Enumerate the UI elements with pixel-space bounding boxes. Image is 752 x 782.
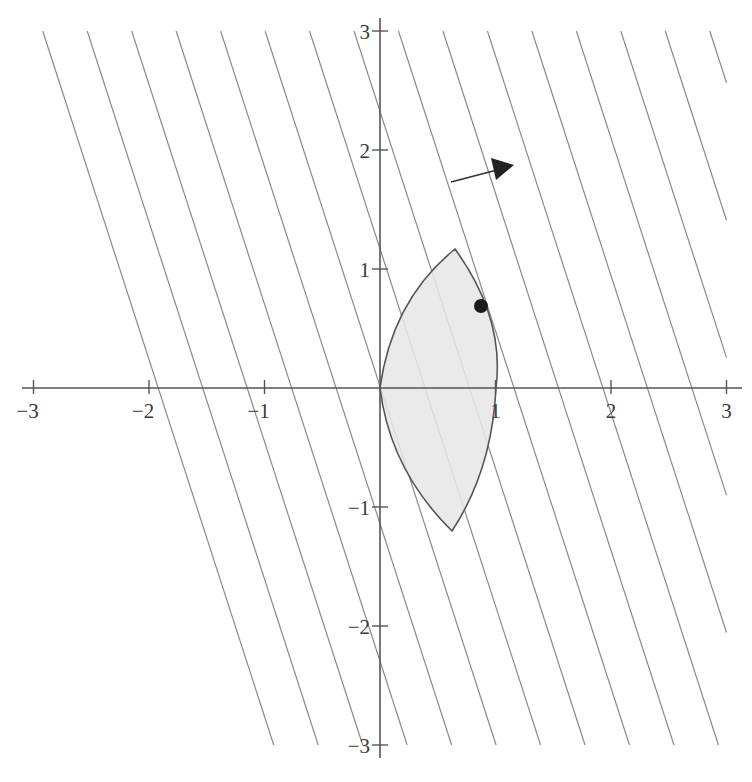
x-tick-label: −2 <box>132 399 154 423</box>
level-line <box>710 31 727 83</box>
level-line <box>665 31 726 220</box>
feasible-region <box>380 249 497 531</box>
y-tick-label: 3 <box>360 20 371 44</box>
y-tick-label: 2 <box>360 139 371 163</box>
y-tick-label: −1 <box>348 496 370 520</box>
direction-arrow <box>451 158 514 182</box>
x-tick-label: 1 <box>490 399 501 423</box>
x-tick-label: −3 <box>16 399 38 423</box>
x-tick-label: 2 <box>606 399 617 423</box>
optimal-point <box>474 299 488 313</box>
y-tick-label: −3 <box>348 734 370 758</box>
axes <box>22 18 742 758</box>
x-tick-label: 3 <box>721 399 732 423</box>
y-tick-label: −2 <box>348 615 370 639</box>
level-line <box>532 31 727 633</box>
level-line <box>576 31 726 495</box>
x-axis-ticks: −3−2−1123 <box>16 380 731 423</box>
optimization-diagram: −3−2−1123 321−1−2−3 <box>0 0 752 782</box>
y-tick-label: 1 <box>360 258 371 282</box>
arrowhead-icon <box>491 158 514 180</box>
x-tick-label: −1 <box>247 399 269 423</box>
level-line <box>621 31 727 358</box>
